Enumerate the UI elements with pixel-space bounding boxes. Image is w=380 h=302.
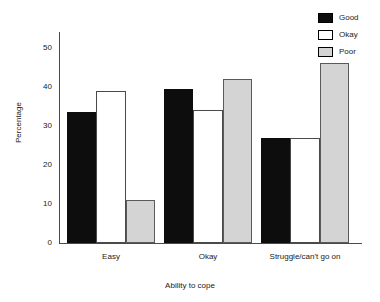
y-tick-label: 0	[6, 239, 52, 247]
y-tick-label: 30	[6, 122, 52, 130]
x-axis-title-text: Ability to cope	[0, 281, 380, 290]
bar-poor-group-1[interactable]	[126, 200, 155, 243]
bar-okay-group-1[interactable]	[96, 91, 125, 243]
y-tick-label: 40	[6, 83, 52, 91]
y-tick-label: 10	[6, 200, 52, 208]
x-axis-tick-labels: EasyOkayStruggle/can't go on	[59, 252, 362, 264]
bar-good-group-1[interactable]	[67, 112, 96, 243]
x-tick-label: Okay	[199, 252, 218, 261]
bar-okay-group-3[interactable]	[290, 138, 319, 244]
legend-label: Good	[339, 13, 359, 23]
y-tick-label: 20	[6, 161, 52, 169]
x-axis-line	[59, 243, 362, 244]
legend-item-good[interactable]: Good	[318, 10, 378, 25]
bar-chart: GoodOkayPoor Percentage 01020304050 Easy…	[0, 0, 380, 302]
y-axis-ticks: 01020304050	[0, 32, 52, 243]
bar-poor-group-2[interactable]	[223, 79, 252, 243]
y-tick-label: 50	[6, 44, 52, 52]
bar-poor-group-3[interactable]	[320, 63, 349, 243]
bar-good-group-2[interactable]	[164, 89, 193, 243]
bar-okay-group-2[interactable]	[193, 110, 222, 243]
legend-swatch-good	[318, 13, 333, 23]
x-tick-label: Easy	[102, 252, 120, 261]
y-axis-line	[59, 32, 60, 243]
plot-area	[59, 32, 362, 243]
x-tick-label: Struggle/can't go on	[270, 252, 341, 261]
bar-good-group-3[interactable]	[261, 138, 290, 244]
